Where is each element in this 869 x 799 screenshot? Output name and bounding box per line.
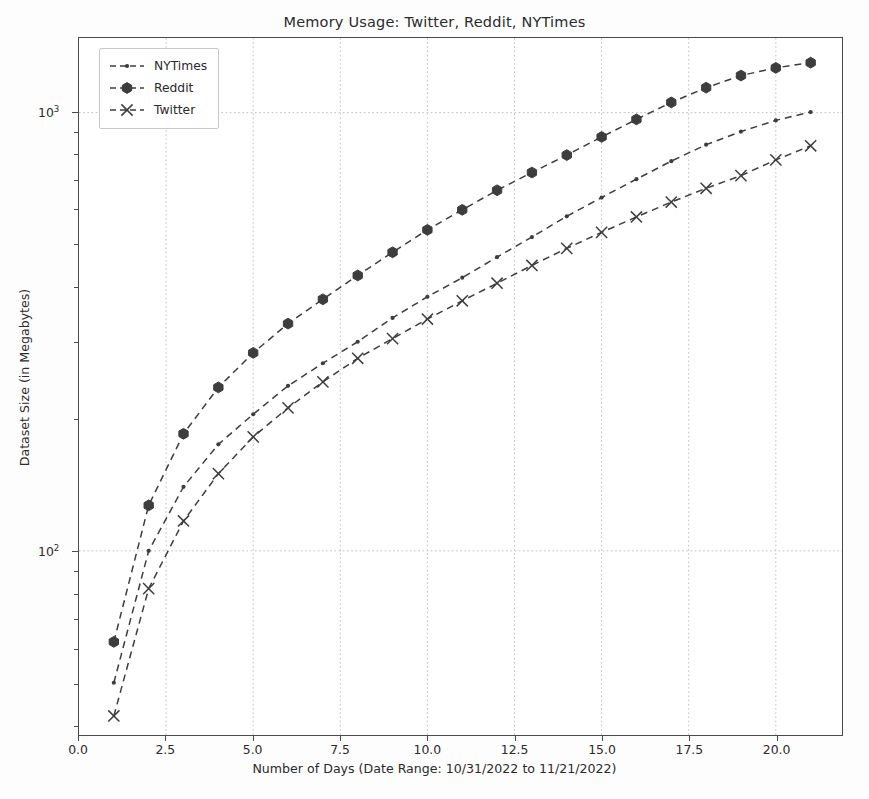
y-tick-mark-minor xyxy=(74,571,78,572)
legend-marker-hexagon-icon xyxy=(109,81,145,95)
series-layer xyxy=(79,38,842,735)
legend-item-nytimes[interactable]: NYTimes xyxy=(109,55,207,77)
y-tick-label: 102 xyxy=(38,543,59,559)
y-tick-mark-minor xyxy=(74,209,78,210)
y-tick-mark-minor xyxy=(74,132,78,133)
y-tick-mark-minor xyxy=(74,342,78,343)
y-tick-mark xyxy=(72,112,78,113)
x-tick-mark xyxy=(515,736,516,741)
x-tick-mark xyxy=(427,736,428,741)
x-tick-label: 20.0 xyxy=(763,742,791,757)
x-tick-label: 2.5 xyxy=(155,742,175,757)
y-tick-mark-minor xyxy=(74,684,78,685)
y-tick-mark xyxy=(72,551,78,552)
y-tick-mark-minor xyxy=(74,594,78,595)
chart-figure: Memory Usage: Twitter, Reddit, NYTimes 0… xyxy=(0,0,869,799)
x-tick-label: 17.5 xyxy=(676,742,704,757)
x-tick-mark xyxy=(777,736,778,741)
legend-item-twitter[interactable]: Twitter xyxy=(109,99,207,121)
y-tick-mark-minor xyxy=(74,619,78,620)
x-tick-mark xyxy=(602,736,603,741)
chart-legend: NYTimesRedditTwitter xyxy=(99,48,219,129)
x-tick-mark xyxy=(340,736,341,741)
x-tick-label: 7.5 xyxy=(330,742,350,757)
x-tick-mark xyxy=(253,736,254,741)
legend-marker-x-icon xyxy=(109,103,145,117)
plot-area xyxy=(78,37,843,736)
y-tick-mark-minor xyxy=(74,287,78,288)
x-tick-mark xyxy=(78,736,79,741)
y-tick-mark-minor xyxy=(74,649,78,650)
y-tick-mark-minor xyxy=(74,154,78,155)
x-axis-label: Number of Days (Date Range: 10/31/2022 t… xyxy=(0,761,869,776)
x-tick-mark xyxy=(689,736,690,741)
legend-label: Reddit xyxy=(154,82,193,94)
y-axis-label: Dataset Size (in Megabytes) xyxy=(17,228,32,528)
legend-label: Twitter xyxy=(154,104,195,116)
y-tick-label: 103 xyxy=(38,104,59,120)
legend-marker-point-icon xyxy=(109,59,145,73)
legend-item-reddit[interactable]: Reddit xyxy=(109,77,207,99)
y-tick-mark-minor xyxy=(74,419,78,420)
y-tick-mark-minor xyxy=(74,180,78,181)
x-tick-label: 0.0 xyxy=(68,742,88,757)
chart-title: Memory Usage: Twitter, Reddit, NYTimes xyxy=(0,14,869,30)
x-tick-label: 15.0 xyxy=(588,742,616,757)
y-tick-mark-minor xyxy=(74,726,78,727)
x-tick-label: 12.5 xyxy=(501,742,529,757)
y-tick-mark-minor xyxy=(74,244,78,245)
x-tick-mark xyxy=(165,736,166,741)
legend-label: NYTimes xyxy=(154,60,207,72)
x-tick-label: 5.0 xyxy=(243,742,263,757)
x-tick-label: 10.0 xyxy=(414,742,442,757)
